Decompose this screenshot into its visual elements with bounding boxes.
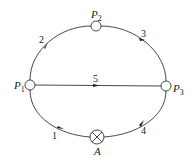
pipe-network-diagram: P1 P2 P3 A 2 3 5 1 4 — [0, 0, 192, 163]
node-p3 — [161, 81, 171, 91]
pipe-3 — [101, 26, 166, 81]
label-pipe-5: 5 — [93, 73, 98, 84]
label-p3: P3 — [172, 82, 184, 97]
label-pipe-1: 1 — [52, 130, 57, 141]
pipe-1 — [30, 90, 90, 137]
label-a: A — [93, 145, 101, 157]
label-p1: P1 — [13, 79, 25, 94]
arrow-icon-pipe-5 — [93, 84, 100, 87]
label-pipe-2: 2 — [39, 34, 44, 45]
node-p1 — [25, 80, 35, 90]
label-pipe-3: 3 — [141, 28, 146, 39]
label-pipe-4: 4 — [141, 125, 146, 136]
pipe-4 — [104, 91, 166, 137]
